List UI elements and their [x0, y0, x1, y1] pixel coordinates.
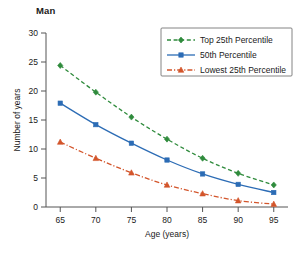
data-point-marker — [200, 155, 205, 161]
x-tick-label: 65 — [56, 215, 66, 225]
legend-item-label: Lowest 25th Percentile — [200, 65, 286, 75]
data-point-marker — [57, 139, 63, 144]
data-point-marker — [200, 172, 204, 176]
data-point-marker — [94, 122, 98, 126]
chart-legend: Top 25th Percentile50th PercentileLowest… — [161, 28, 292, 76]
series-3 — [57, 139, 276, 206]
x-tick-label: 85 — [198, 215, 208, 225]
x-tick-label: 95 — [269, 215, 279, 225]
data-point-marker — [236, 182, 240, 186]
data-point-marker — [129, 141, 133, 145]
legend-item-label: Top 25th Percentile — [200, 35, 273, 45]
series-line — [60, 142, 274, 204]
y-tick-label: 10 — [29, 144, 39, 154]
series-2 — [58, 101, 276, 195]
y-tick-label: 30 — [29, 28, 39, 38]
data-point-marker — [58, 101, 62, 105]
x-axis-title: Age (years) — [145, 229, 189, 239]
y-axis-title: Number of years — [12, 89, 22, 152]
x-tick-label: 70 — [91, 215, 101, 225]
y-tick-label: 0 — [33, 202, 38, 212]
data-point-marker — [129, 114, 134, 120]
x-tick-label: 80 — [162, 215, 172, 225]
y-tick-label: 15 — [29, 115, 39, 125]
data-point-marker — [236, 170, 241, 176]
y-axis: 051015202530 — [29, 28, 46, 212]
y-tick-label: 25 — [29, 57, 39, 67]
data-point-marker — [164, 136, 169, 142]
data-point-marker — [93, 155, 99, 160]
x-axis: 65707580859095 — [46, 207, 288, 225]
data-series-layer — [57, 62, 276, 206]
series-line — [60, 103, 274, 192]
x-tick-label: 90 — [233, 215, 243, 225]
y-tick-label: 5 — [33, 173, 38, 183]
data-point-marker — [165, 158, 169, 162]
x-tick-label: 75 — [127, 215, 137, 225]
series-line — [60, 65, 274, 184]
y-axis-ticks: 051015202530 — [29, 28, 46, 212]
series-1 — [58, 62, 277, 187]
data-point-marker — [271, 182, 276, 188]
x-axis-ticks: 65707580859095 — [56, 207, 279, 225]
legend-item-label: 50th Percentile — [200, 50, 257, 60]
data-point-marker — [272, 190, 276, 194]
data-point-marker — [179, 53, 183, 57]
line-chart-plot: 051015202530 65707580859095 Age (years) … — [0, 0, 296, 253]
chart-page: Man 051015202530 65707580859095 Age (yea… — [0, 0, 296, 253]
y-tick-label: 20 — [29, 86, 39, 96]
